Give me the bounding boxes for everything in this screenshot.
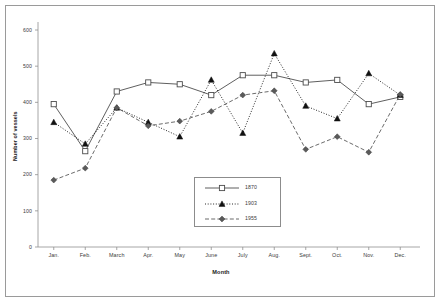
data-point-1903-Jan.: [51, 119, 57, 125]
data-point-1955-Jan.: [51, 177, 57, 183]
data-point-1870-June: [209, 93, 214, 98]
data-point-1955-July: [240, 92, 246, 98]
data-point-1870-Nov.: [366, 102, 371, 107]
data-point-1870-Jan.: [51, 102, 56, 107]
legend-entry-1: 1903: [195, 196, 282, 212]
series-1903: [51, 50, 404, 146]
legend-label-2: 1955: [245, 215, 257, 221]
legend-marker-0: [203, 180, 241, 196]
data-point-1870-Sept.: [303, 80, 308, 85]
data-point-1870-Oct.: [335, 77, 340, 82]
legend-marker-2: [203, 211, 241, 227]
data-point-1955-Oct.: [334, 134, 340, 140]
data-point-1870-Apr.: [146, 80, 151, 85]
chart-canvas: [0, 0, 442, 303]
legend-point-1870: [219, 185, 224, 190]
data-point-1870-May: [177, 82, 182, 87]
data-point-1903-Nov.: [366, 70, 372, 76]
series-line-1870: [54, 75, 401, 151]
data-point-1903-Sept.: [303, 103, 309, 109]
data-point-1955-Nov.: [366, 149, 372, 155]
series-line-1955: [54, 91, 401, 180]
data-point-1903-Oct.: [334, 116, 340, 122]
data-point-1955-Aug.: [271, 88, 277, 94]
legend-label-1: 1903: [245, 200, 257, 206]
chart-legend: 1870 1903 1955: [194, 177, 281, 227]
data-point-1870-Aug.: [272, 73, 277, 78]
data-point-1955-June: [208, 108, 214, 114]
data-point-1903-July: [240, 130, 246, 136]
data-point-1955-May: [177, 118, 183, 124]
chart-screenshot: Number of vessels Month 0100200300400500…: [0, 0, 442, 303]
series-1955: [51, 88, 403, 183]
data-point-1955-Sept.: [303, 146, 309, 152]
data-point-1903-May: [177, 134, 183, 140]
series-1870: [51, 73, 403, 154]
data-point-1903-June: [208, 77, 214, 83]
data-point-1870-Feb.: [83, 149, 88, 154]
data-point-1870-July: [240, 73, 245, 78]
legend-entry-0: 1870: [195, 180, 282, 196]
legend-point-1955: [219, 216, 225, 222]
data-point-1955-Feb.: [82, 165, 88, 171]
series-line-1903: [54, 54, 401, 144]
data-point-1870-March: [114, 89, 119, 94]
legend-label-0: 1870: [245, 184, 257, 190]
legend-entry-2: 1955: [195, 211, 282, 227]
data-point-1903-Aug.: [271, 50, 277, 56]
legend-marker-1: [203, 196, 241, 212]
